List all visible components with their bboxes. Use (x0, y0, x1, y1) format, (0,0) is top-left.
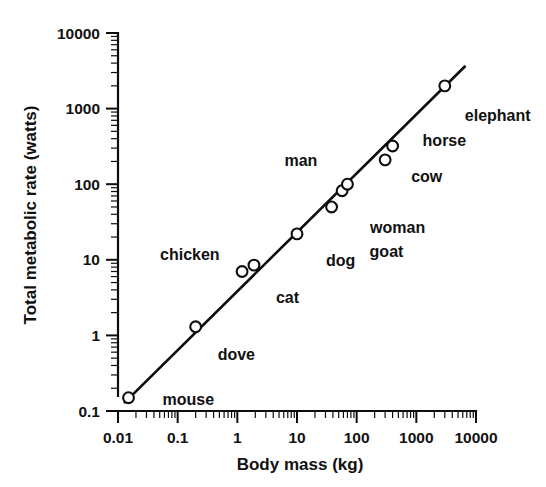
data-point-label: dog (326, 252, 355, 269)
y-tick-label: 0.1 (78, 403, 100, 420)
data-point-label: goat (370, 243, 404, 260)
data-point-marker (439, 80, 450, 91)
data-point-marker (326, 202, 337, 213)
x-tick-label: 10 (288, 429, 305, 446)
data-point-label: chicken (160, 246, 220, 263)
x-axis-title: Body mass (kg) (237, 455, 364, 474)
y-tick-label: 10 (83, 251, 100, 268)
data-point-label: cow (411, 168, 443, 185)
y-tick-label: 10000 (57, 25, 100, 42)
metabolic-rate-scatter-chart: 0.1110100100010000 Total metabolic rate … (0, 0, 546, 487)
data-point-label: cat (276, 289, 300, 306)
y-tick-label: 100 (74, 176, 100, 193)
data-point-marker (249, 260, 260, 271)
x-tick-label: 0.1 (167, 429, 189, 446)
y-tick-label: 1 (91, 327, 100, 344)
y-tick-label: 1000 (66, 100, 100, 117)
data-point-label: horse (423, 132, 467, 149)
data-point-marker (342, 179, 353, 190)
data-point-marker (237, 266, 248, 277)
x-tick-label: 10000 (454, 429, 497, 446)
data-point-label: elephant (465, 107, 531, 124)
data-point-marker (190, 321, 201, 332)
chart-page: 0.1110100100010000 Total metabolic rate … (0, 0, 546, 487)
data-point-label: woman (369, 219, 425, 236)
y-axis-title: Total metabolic rate (watts) (21, 106, 40, 325)
x-tick-label: 100 (344, 429, 370, 446)
x-tick-label: 1 (233, 429, 242, 446)
data-point-marker (387, 141, 398, 152)
data-point-label: mouse (163, 391, 215, 408)
data-point-marker (123, 392, 134, 403)
data-point-label: dove (218, 346, 255, 363)
data-point-marker (380, 154, 391, 165)
data-point-marker (292, 229, 303, 240)
x-tick-label: 0.01 (103, 429, 134, 446)
x-tick-label: 1000 (399, 429, 433, 446)
data-point-label: man (284, 152, 317, 169)
